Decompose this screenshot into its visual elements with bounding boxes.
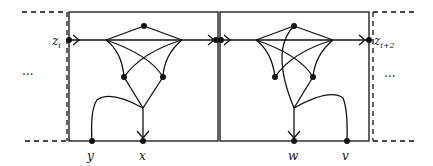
- label-x: x: [139, 149, 146, 163]
- left-gadget-edges: [69, 26, 214, 141]
- gadget-diagram: zi zi+2 y x w v ··· ···: [0, 0, 433, 166]
- right-dashed-boundary: [373, 12, 418, 141]
- ellipsis-left: ···: [22, 68, 33, 82]
- label-z-i-plus-2: zi+2: [373, 34, 395, 50]
- vertices: [66, 23, 372, 144]
- label-y: y: [86, 149, 94, 163]
- right-gadget-edges: [220, 26, 369, 141]
- label-w: w: [288, 149, 299, 163]
- label-v: v: [342, 149, 349, 163]
- ellipsis-right: ···: [384, 70, 395, 84]
- label-z-i: zi: [51, 34, 61, 50]
